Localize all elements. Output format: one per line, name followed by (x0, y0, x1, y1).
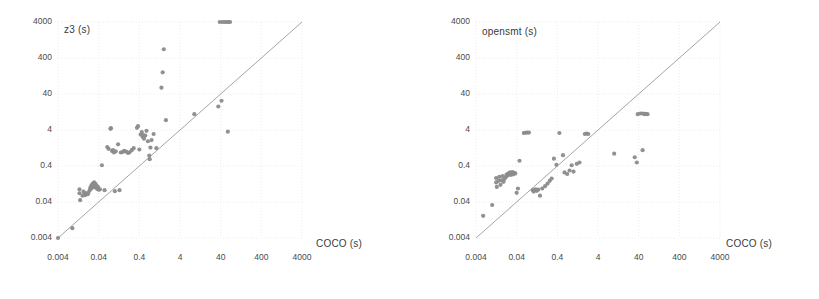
x-tick-label: 4000 (276, 252, 328, 262)
panel-z3: z3 (s) COCO (s) 0.0040.040.444040040000.… (0, 0, 409, 299)
data-point (586, 132, 590, 136)
data-point (216, 104, 220, 108)
y-tick-label: 400 (0, 52, 52, 62)
data-point (635, 160, 639, 164)
data-point (633, 155, 637, 159)
data-point (137, 147, 141, 151)
data-point (536, 188, 540, 192)
data-point (132, 146, 136, 150)
data-point (162, 47, 166, 51)
y-tick-label: 40 (0, 88, 52, 98)
data-point (228, 20, 232, 24)
data-point (552, 157, 556, 161)
data-point (164, 118, 168, 122)
y-tick-label: 0.04 (418, 196, 470, 206)
data-point (161, 70, 165, 74)
data-point (147, 153, 151, 157)
data-point (148, 157, 152, 161)
data-point (114, 149, 118, 153)
data-point (557, 131, 561, 135)
data-point (77, 187, 81, 191)
data-point (498, 183, 502, 187)
data-point (481, 214, 485, 218)
x-axis-title-coco: COCO (s) (726, 238, 772, 249)
data-point (149, 138, 153, 142)
data-point (226, 130, 230, 134)
y-tick-label: 4000 (0, 16, 52, 26)
data-point (517, 159, 521, 163)
y-tick-label: 4 (418, 124, 470, 134)
panel-opensmt: opensmt (s) COCO (s) 0.0040.040.44404004… (410, 0, 819, 299)
data-point (570, 163, 574, 167)
data-point (515, 191, 519, 195)
data-point (645, 112, 649, 116)
data-point (516, 186, 520, 190)
y-tick-label: 400 (418, 52, 470, 62)
data-point (144, 129, 148, 133)
y-axis-title-opensmt: opensmt (s) (482, 26, 537, 37)
data-point (565, 172, 569, 176)
data-point (103, 188, 107, 192)
y-tick-label: 0.004 (0, 232, 52, 242)
data-point (98, 187, 102, 191)
y-tick-label: 40 (418, 88, 470, 98)
data-point (554, 163, 558, 167)
data-point (78, 198, 82, 202)
data-point (567, 168, 571, 172)
data-point (152, 132, 156, 136)
data-point (154, 146, 158, 150)
y-tick-label: 0.04 (0, 196, 52, 206)
data-point (159, 86, 163, 90)
data-point (527, 130, 531, 134)
data-point (136, 124, 140, 128)
y-tick-label: 0.4 (0, 160, 52, 170)
data-point (550, 176, 554, 180)
data-point (612, 152, 616, 156)
data-point (116, 142, 120, 146)
figure-root: z3 (s) COCO (s) 0.0040.040.444040040000.… (0, 0, 819, 299)
data-point (113, 189, 117, 193)
data-point (148, 145, 152, 149)
data-point (495, 185, 499, 189)
y-tick-label: 0.4 (418, 160, 470, 170)
data-point (538, 194, 542, 198)
data-point (571, 169, 575, 173)
y-tick-label: 4 (0, 124, 52, 134)
data-point (513, 171, 517, 175)
data-point (146, 139, 150, 143)
data-point (100, 163, 104, 167)
data-point (219, 99, 223, 103)
data-point (143, 133, 147, 137)
y-tick-label: 4000 (418, 16, 470, 26)
data-point (577, 160, 581, 164)
data-point (490, 203, 494, 207)
data-point (70, 226, 74, 230)
data-point (56, 236, 60, 240)
x-tick-label: 4000 (694, 252, 746, 262)
y-axis-title-z3: z3 (s) (64, 24, 90, 35)
data-point (117, 188, 121, 192)
data-point (641, 148, 645, 152)
data-point (561, 153, 565, 157)
x-axis-title-coco: COCO (s) (316, 238, 362, 249)
data-point (109, 126, 113, 130)
data-point (192, 112, 196, 116)
y-tick-label: 0.004 (418, 232, 470, 242)
